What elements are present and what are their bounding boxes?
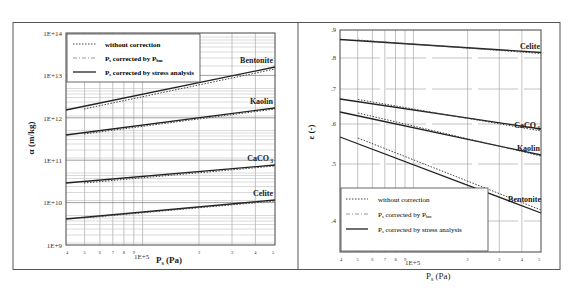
right-label-caco3: CaCO (514, 121, 536, 130)
left-xtick: 7 (112, 250, 115, 255)
left-xtick: 6 (99, 250, 102, 255)
right-legend-entry-1: without correction (378, 196, 430, 204)
left-legend-entry-2: Ps corrected by Pbm (105, 55, 163, 64)
curve-caco3 (340, 99, 541, 129)
left-ytick-1e12: 1E+12 (43, 115, 62, 123)
curve-caco3 (66, 165, 275, 183)
left-xtick: 4 (66, 250, 69, 255)
left-ytick-1e9: 1E+9 (47, 242, 63, 250)
left-xtick: 5 (272, 250, 275, 255)
right-xtick: 2 (466, 257, 468, 262)
left-legend-entry-1: without correction (105, 41, 160, 49)
right-ytick-0.7: .7 (331, 85, 337, 92)
left-label-celite: Celite (253, 189, 273, 198)
left-label-bentonite: Bentonite (240, 56, 273, 65)
right-chart: Celite CaCO 3 Kaolin Bentonite without c… (306, 26, 541, 282)
right-xtick: 3 (498, 257, 501, 262)
left-label-kaolin: Kaolin (250, 97, 274, 106)
left-xtick-decade: 1E+5 (134, 253, 150, 261)
right-label-kaolin: Kaolin (517, 144, 541, 153)
right-label-caco3-sub: 3 (537, 125, 540, 131)
right-ytick-0.6: .6 (331, 120, 337, 127)
right-xtick: 7 (384, 257, 387, 262)
right-xtick: 6 (371, 257, 374, 262)
right-xtick-decade: 1E+5 (405, 259, 421, 267)
left-x-axis-label: Ps (Pa) (156, 255, 182, 266)
left-y-axis-label: α (m/kg) (26, 122, 36, 155)
right-xtick: 4 (340, 257, 343, 262)
right-y-axis-label: ε (-) (306, 124, 316, 139)
right-curves (340, 40, 541, 214)
curve-kaolin-uncorrected (358, 113, 541, 156)
left-legend-entry-3: Ps corrected by stress analysis (105, 69, 194, 78)
left-xtick: 4 (254, 250, 257, 255)
left-chart: Bentonite Kaolin CaCO 3 Celite without c… (26, 30, 275, 266)
curve-celite (340, 40, 541, 53)
left-ytick-1e11: 1E+11 (44, 157, 63, 165)
curve-kaolin (66, 108, 275, 135)
left-curves (66, 67, 275, 219)
left-xtick: 3 (231, 250, 234, 255)
left-ytick-1e13: 1E+13 (43, 72, 62, 80)
left-label-caco3-sub: 3 (270, 158, 273, 164)
right-ytick-0.5: .5 (331, 160, 336, 167)
left-ytick-1e10: 1E+10 (43, 199, 62, 207)
right-label-celite: Celite (520, 42, 540, 51)
right-legend: without correction Ps corrected by Pbm P… (341, 188, 488, 251)
left-decade-hgrid (66, 75, 275, 202)
right-xtick: 5 (538, 257, 541, 262)
right-legend-entry-3: Ps corrected by stress analysis (378, 226, 462, 235)
right-ytick-0.8: .8 (331, 54, 336, 61)
right-label-bentonite: Bentonite (508, 195, 541, 204)
left-xtick: 2 (198, 250, 200, 255)
right-ytick-0.9: .9 (331, 26, 336, 33)
right-ytick-0.4: .4 (331, 217, 337, 224)
left-label-caco3: CaCO (247, 154, 269, 163)
figure: Bentonite Kaolin CaCO 3 Celite without c… (0, 0, 571, 300)
left-ytick-1e14: 1E+14 (43, 30, 62, 38)
right-xtick: 8 (394, 257, 397, 262)
right-xtick: 4 (521, 257, 524, 262)
right-legend-entry-2: Ps corrected by Pbm (378, 211, 432, 220)
right-xtick: 5 (357, 257, 360, 262)
right-x-axis-label: Ps (Pa) (426, 271, 451, 282)
left-legend: without correction Ps corrected by Pbm P… (67, 34, 200, 82)
left-xtick: 8 (123, 250, 126, 255)
left-xtick: 5 (83, 250, 86, 255)
